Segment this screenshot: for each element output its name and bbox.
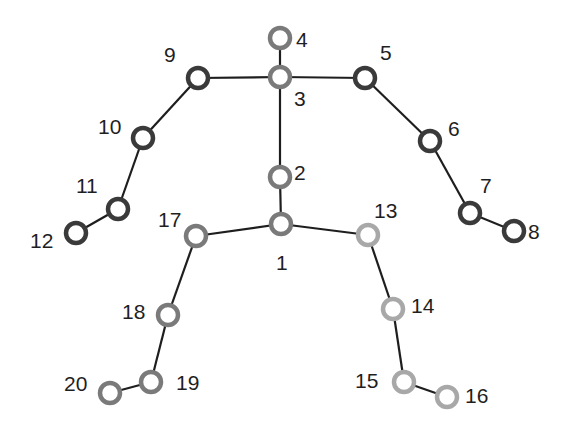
joint-4-label: 4 (296, 28, 308, 51)
joint-11-label: 11 (76, 174, 98, 197)
joint-16-label: 16 (465, 384, 488, 407)
joint-9-label: 9 (164, 43, 176, 66)
joint-8-node (504, 221, 524, 241)
joint-14-label: 14 (411, 294, 435, 317)
skeleton-diagram: 1234567891011121314151617181920 (0, 0, 571, 434)
joint-13-label: 13 (374, 199, 397, 222)
bone-1-13 (281, 224, 368, 235)
bone-6-7 (430, 141, 470, 213)
bone-5-6 (365, 78, 430, 141)
joint-15-label: 15 (355, 369, 378, 392)
joint-2-label: 2 (294, 161, 306, 184)
joint-18-label: 18 (122, 300, 145, 323)
joint-12-node (66, 223, 86, 243)
joint-7-node (460, 203, 480, 223)
joint-19-node (141, 372, 161, 392)
joint-11-node (108, 199, 128, 219)
joint-3-label: 3 (294, 87, 306, 110)
joint-16-node (437, 387, 457, 407)
joint-1-node (271, 214, 291, 234)
joint-17-label: 17 (158, 208, 181, 231)
joint-15-node (394, 372, 414, 392)
joint-12-label: 12 (30, 229, 53, 252)
joint-8-label: 8 (528, 220, 540, 243)
bone-1-17 (196, 224, 281, 236)
joint-3-node (270, 67, 290, 87)
joint-19-label: 19 (176, 371, 199, 394)
joint-20-node (100, 383, 120, 403)
joint-6-node (420, 131, 440, 151)
joint-2-node (270, 167, 290, 187)
joint-17-node (186, 226, 206, 246)
joint-20-label: 20 (64, 372, 87, 395)
joint-5-label: 5 (380, 41, 392, 64)
joints-layer (66, 28, 524, 407)
joint-6-label: 6 (448, 117, 460, 140)
joint-4-node (270, 28, 290, 48)
skeleton-svg: 1234567891011121314151617181920 (0, 0, 571, 434)
joint-14-node (383, 299, 403, 319)
bone-3-5 (280, 77, 365, 78)
joint-1-label: 1 (276, 251, 288, 274)
joint-18-node (158, 305, 178, 325)
bone-17-18 (168, 236, 196, 315)
joint-5-node (355, 68, 375, 88)
joint-7-label: 7 (480, 174, 492, 197)
joint-10-node (133, 128, 153, 148)
joint-10-label: 10 (98, 115, 121, 138)
joint-13-node (358, 225, 378, 245)
joint-9-node (188, 68, 208, 88)
bone-3-9 (198, 77, 280, 78)
